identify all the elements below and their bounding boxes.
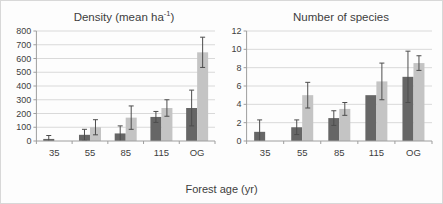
svg-text:300: 300 bbox=[16, 95, 31, 105]
species-chart: Number of species 024681012355585115OG bbox=[224, 6, 436, 167]
svg-text:200: 200 bbox=[16, 109, 31, 119]
svg-text:0: 0 bbox=[237, 136, 242, 146]
svg-text:6: 6 bbox=[237, 81, 242, 91]
svg-text:12: 12 bbox=[232, 26, 242, 36]
svg-text:8: 8 bbox=[237, 63, 242, 73]
density-title-text: Density (mean ha bbox=[74, 11, 164, 23]
svg-text:35: 35 bbox=[260, 147, 271, 158]
svg-text:55: 55 bbox=[297, 147, 308, 158]
svg-text:55: 55 bbox=[85, 147, 96, 158]
svg-text:10: 10 bbox=[232, 44, 242, 54]
density-chart-title: Density (mean ha-1) bbox=[7, 6, 219, 23]
density-chart-plot: 0100200300400500600700800355585115OG bbox=[7, 23, 219, 167]
svg-text:600: 600 bbox=[16, 54, 31, 64]
x-axis-label: Forest age (yr) bbox=[1, 183, 442, 195]
svg-text:35: 35 bbox=[49, 147, 60, 158]
svg-text:400: 400 bbox=[16, 81, 31, 91]
bar-chart-figure: Density (mean ha-1) 01002003004005006007… bbox=[0, 0, 443, 204]
species-chart-title: Number of species bbox=[224, 6, 436, 23]
svg-text:OG: OG bbox=[190, 147, 205, 158]
svg-text:500: 500 bbox=[16, 67, 31, 77]
density-chart: Density (mean ha-1) 01002003004005006007… bbox=[7, 6, 219, 167]
svg-text:OG: OG bbox=[406, 147, 421, 158]
svg-text:115: 115 bbox=[154, 147, 169, 158]
svg-text:100: 100 bbox=[16, 122, 31, 132]
species-title-text: Number of species bbox=[293, 11, 389, 23]
svg-text:0: 0 bbox=[26, 136, 31, 146]
density-title-close: ) bbox=[170, 11, 174, 23]
species-chart-plot: 024681012355585115OG bbox=[224, 23, 436, 167]
svg-text:115: 115 bbox=[369, 147, 384, 158]
charts-row: Density (mean ha-1) 01002003004005006007… bbox=[1, 6, 442, 167]
svg-text:85: 85 bbox=[334, 147, 345, 158]
svg-text:2: 2 bbox=[237, 118, 242, 128]
svg-text:4: 4 bbox=[237, 99, 242, 109]
svg-text:85: 85 bbox=[120, 147, 131, 158]
svg-text:800: 800 bbox=[16, 26, 31, 36]
svg-text:700: 700 bbox=[16, 40, 31, 50]
